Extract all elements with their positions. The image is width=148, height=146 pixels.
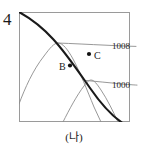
- weather-map-diagram: 4 1008 1000 B C (나): [0, 0, 148, 146]
- isobar-label-1000: 1000: [112, 80, 131, 90]
- panel-caption: (나): [65, 131, 83, 144]
- point-c-label: C: [94, 50, 101, 61]
- canvas-background: [0, 0, 148, 146]
- point-b-marker: [68, 63, 72, 67]
- point-c-marker: [87, 52, 91, 56]
- isobar-label-1008: 1008: [112, 41, 131, 51]
- point-b-label: B: [59, 61, 66, 72]
- figure-number: 4: [3, 10, 12, 29]
- figure-container: 4 1008 1000 B C (나): [0, 0, 148, 146]
